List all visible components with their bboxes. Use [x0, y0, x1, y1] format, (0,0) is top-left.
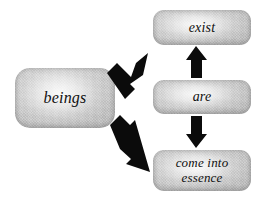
node-beings[interactable]: beings: [15, 68, 115, 128]
node-come-into-essence[interactable]: come into essence: [153, 150, 251, 191]
node-beings-label: beings: [40, 89, 91, 107]
arrow-are-to-come-into-essence: [186, 116, 207, 148]
node-are[interactable]: are: [153, 80, 251, 114]
node-are-label: are: [189, 89, 216, 105]
arrow-beings-to-come-into-essence: [110, 115, 150, 172]
node-come-into-essence-label: come into essence: [172, 156, 233, 185]
node-exist[interactable]: exist: [153, 10, 251, 45]
diagram-canvas: beings exist are come into essence: [0, 0, 263, 197]
arrow-are-to-exist: [186, 46, 207, 78]
node-exist-label: exist: [185, 20, 220, 36]
